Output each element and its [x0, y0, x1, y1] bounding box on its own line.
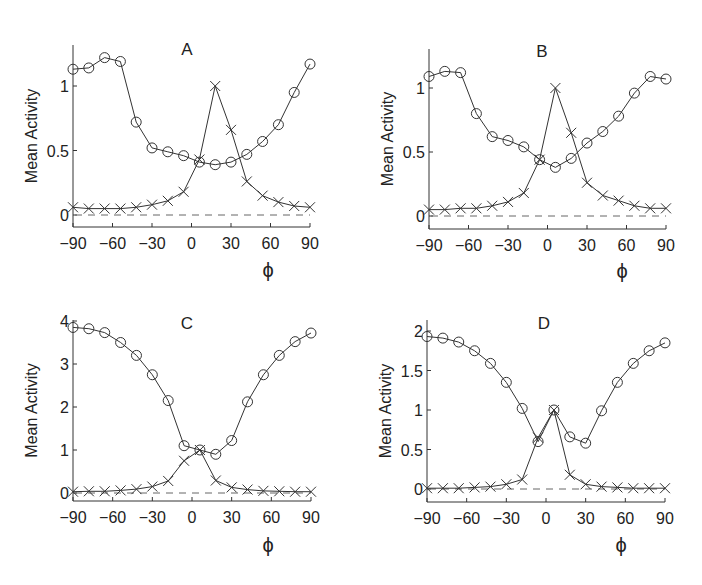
cross-marker — [163, 196, 173, 206]
series-line-crosses — [73, 86, 310, 209]
cross-marker — [258, 191, 268, 201]
y-tick-label: 1 — [60, 78, 69, 95]
series-line-crosses — [73, 450, 311, 492]
x-tick-label: 30 — [222, 235, 240, 252]
x-tick-label: −60 — [99, 509, 126, 526]
x-axis-label-phi: ϕ — [615, 534, 626, 556]
cross-marker — [581, 479, 591, 489]
y-tick-label: 3 — [60, 356, 69, 373]
cross-marker — [582, 178, 592, 188]
panel-title: D — [538, 314, 550, 333]
series-line-circles — [73, 58, 310, 165]
y-axis-label: Mean Activity — [377, 364, 394, 458]
y-tick-label: 0 — [60, 485, 69, 502]
cross-marker — [226, 125, 236, 135]
x-tick-label: −90 — [59, 235, 86, 252]
y-tick-label: 0 — [60, 207, 69, 224]
x-tick-label: 60 — [618, 237, 636, 254]
y-tick-label: 0 — [416, 208, 425, 225]
panel-d: D00.511.52−90−60−300306090Mean Activityϕ — [377, 314, 674, 556]
cross-marker — [549, 405, 559, 415]
panel-b: B00.51−90−60−300306090Mean Activityϕ — [379, 42, 675, 282]
cross-marker — [503, 197, 513, 207]
cross-marker — [211, 476, 221, 486]
x-axis-label-phi: ϕ — [262, 534, 273, 556]
cross-marker — [535, 155, 545, 165]
cross-marker — [242, 176, 252, 186]
x-tick-label: −90 — [415, 237, 442, 254]
x-tick-label: 0 — [542, 510, 551, 527]
cross-marker — [566, 128, 576, 138]
x-tick-label: 60 — [262, 235, 280, 252]
series-line-circles — [73, 327, 311, 454]
x-tick-label: 0 — [543, 237, 552, 254]
x-tick-label: −30 — [493, 510, 520, 527]
cross-marker — [614, 196, 624, 206]
panel-title: C — [181, 314, 193, 333]
x-tick-label: 0 — [188, 509, 197, 526]
circle-marker — [660, 338, 670, 348]
x-tick-label: −30 — [138, 235, 165, 252]
y-axis-label: Mean Activity — [379, 92, 396, 186]
y-tick-label: 2 — [60, 399, 69, 416]
x-tick-label: 60 — [616, 510, 634, 527]
panel-a: A00.51−90−60−300306090Mean Activityϕ — [23, 40, 319, 281]
cross-marker — [163, 476, 173, 486]
x-tick-label: −90 — [59, 509, 86, 526]
panel-title: B — [536, 42, 547, 61]
cross-marker — [179, 456, 189, 466]
series-line-circles — [429, 71, 666, 167]
cross-marker — [565, 470, 575, 480]
x-tick-label: 90 — [301, 235, 319, 252]
cross-marker — [273, 197, 283, 207]
cross-marker — [517, 475, 527, 485]
x-tick-label: 30 — [223, 509, 241, 526]
x-axis-label-phi: ϕ — [262, 259, 273, 281]
circle-marker — [661, 74, 671, 84]
figure-four-panels: A00.51−90−60−300306090Mean Activityϕ B00… — [0, 0, 702, 585]
y-tick-label: 0.5 — [401, 442, 423, 459]
cross-marker — [487, 201, 497, 211]
x-tick-label: 30 — [577, 510, 595, 527]
x-tick-label: 0 — [187, 235, 196, 252]
y-tick-label: 1 — [416, 80, 425, 97]
x-tick-label: −60 — [455, 237, 482, 254]
cross-marker — [194, 155, 204, 165]
cross-marker — [179, 187, 189, 197]
y-axis-label: Mean Activity — [23, 89, 40, 183]
circle-marker — [305, 59, 315, 69]
series-line-crosses — [429, 88, 666, 210]
y-tick-label: 1 — [414, 402, 423, 419]
x-tick-label: 30 — [578, 237, 596, 254]
cross-marker — [501, 479, 511, 489]
series-line-circles — [427, 337, 665, 444]
x-tick-label: 90 — [657, 237, 675, 254]
x-tick-label: −30 — [494, 237, 521, 254]
y-axis-label: Mean Activity — [23, 363, 40, 457]
y-tick-label: 1.5 — [401, 363, 423, 380]
x-tick-label: −30 — [139, 509, 166, 526]
cross-marker — [519, 188, 529, 198]
x-tick-label: −60 — [453, 510, 480, 527]
y-tick-label: 0.5 — [403, 144, 425, 161]
cross-marker — [598, 191, 608, 201]
panel-c: C01234−90−60−300306090Mean Activityϕ — [23, 313, 320, 556]
cross-marker — [210, 81, 220, 91]
cross-marker — [147, 200, 157, 210]
cross-marker — [147, 482, 157, 492]
x-tick-label: 90 — [302, 509, 320, 526]
x-tick-label: 90 — [656, 510, 674, 527]
panel-title: A — [181, 40, 193, 59]
chart-canvas: A00.51−90−60−300306090Mean Activityϕ B00… — [0, 0, 702, 585]
x-tick-label: −60 — [99, 235, 126, 252]
y-tick-label: 1 — [60, 442, 69, 459]
cross-marker — [629, 201, 639, 211]
x-tick-label: 60 — [262, 509, 280, 526]
series-line-crosses — [427, 410, 665, 488]
x-tick-label: −90 — [413, 510, 440, 527]
cross-marker — [550, 83, 560, 93]
cross-marker — [195, 445, 205, 455]
x-axis-label-phi: ϕ — [616, 260, 627, 282]
y-tick-label: 0.5 — [47, 143, 69, 160]
